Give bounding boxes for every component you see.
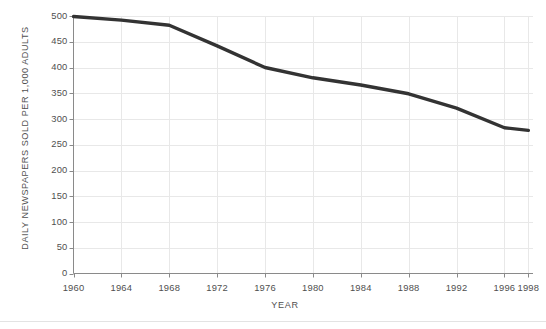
x-tick-label: 1976 — [242, 282, 288, 293]
y-tick-label: 400 — [34, 61, 68, 72]
x-tick-label: 1972 — [194, 282, 240, 293]
chart-figure: 050100150200250300350400450500 196019641… — [0, 0, 546, 329]
y-tick-label: 300 — [34, 113, 68, 124]
x-tick-label: 1998 — [505, 282, 546, 293]
x-tick-label: 1984 — [338, 282, 384, 293]
x-tick-label: 1988 — [386, 282, 432, 293]
y-tick-label: 100 — [34, 216, 68, 227]
x-tick-label: 1980 — [290, 282, 336, 293]
tickmarks-group — [70, 17, 529, 278]
footer-divider — [0, 321, 546, 322]
y-tick-label: 150 — [34, 190, 68, 201]
x-tick-label: 1968 — [146, 282, 192, 293]
x-axis-title-text: YEAR — [271, 300, 299, 310]
y-tick-label: 0 — [34, 267, 68, 278]
y-tick-label: 50 — [34, 241, 68, 252]
y-tick-label: 450 — [34, 35, 68, 46]
y-tick-label: 200 — [34, 164, 68, 175]
y-axis-title: DAILY NEWSPAPERS SOLD PER 1,000 ADULTS — [20, 0, 30, 281]
y-tick-label: 500 — [34, 10, 68, 21]
x-axis-title: YEAR — [0, 300, 546, 310]
y-tick-label: 350 — [34, 87, 68, 98]
data-series-line — [74, 17, 529, 131]
gridlines-group — [74, 16, 534, 274]
x-tick-label: 1992 — [434, 282, 480, 293]
x-tick-label: 1964 — [98, 282, 144, 293]
x-tick-label: 1960 — [51, 282, 97, 293]
chart-plot-area — [0, 0, 546, 329]
y-tick-label: 250 — [34, 138, 68, 149]
